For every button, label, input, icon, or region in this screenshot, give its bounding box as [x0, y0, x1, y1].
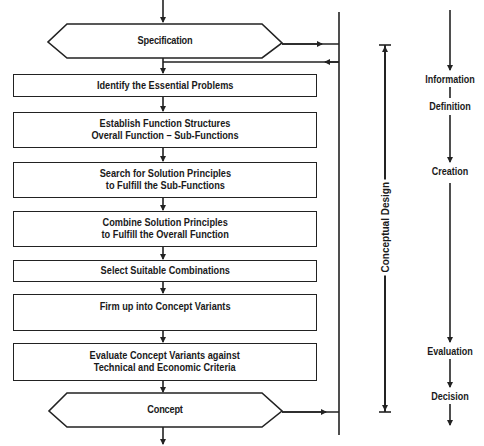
activity-evaluation: Evaluation [414, 346, 484, 357]
step-label: Search for Solution Principles to Fulfil… [99, 168, 230, 192]
step-function-structures: Establish Function Structures Overall Fu… [13, 112, 317, 148]
step-evaluate-variants: Evaluate Concept Variants against Techni… [13, 343, 317, 381]
step-label: Evaluate Concept Variants against Techni… [90, 350, 240, 374]
step-label: Firm up into Concept Variants [100, 301, 231, 313]
activity-definition: Definition [414, 101, 484, 112]
step-identify-problems: Identify the Essential Problems [13, 74, 317, 97]
step-label: Identify the Essential Problems [97, 80, 234, 92]
step-search-principles: Search for Solution Principles to Fulfil… [13, 162, 317, 198]
step-combine-principles: Combine Solution Principles to Fulfill t… [13, 211, 317, 247]
step-label: Establish Function Structures Overall Fu… [91, 118, 238, 142]
step-select-combinations: Select Suitable Combinations [13, 260, 317, 282]
conceptual-design-label: Conceptual Design [380, 180, 391, 276]
activity-decision: Decision [414, 391, 484, 402]
step-label: Select Suitable Combinations [100, 265, 229, 277]
step-firm-up-variants: Firm up into Concept Variants [13, 294, 317, 331]
concept-label: Concept [68, 404, 261, 416]
specification-label: Specification [68, 35, 261, 47]
activity-information: Information [414, 74, 484, 85]
step-label: Combine Solution Principles to Fulfill t… [101, 217, 228, 241]
activity-creation: Creation [414, 166, 484, 177]
